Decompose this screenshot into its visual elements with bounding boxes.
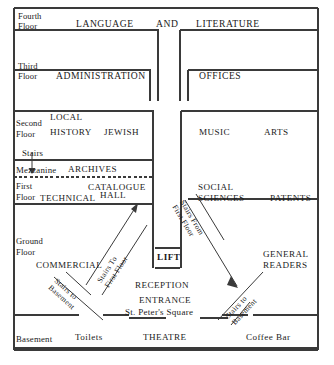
floor-label-mezzanine: Mezzanine — [16, 166, 56, 175]
floor-label-third-line2: Floor — [18, 72, 37, 81]
entrance-label: ENTRANCE — [139, 296, 191, 305]
dept-and: AND — [156, 19, 178, 29]
dept-literature: LITERATURE — [196, 19, 260, 29]
dept-language: LANGUAGE — [76, 19, 134, 29]
dept-music: MUSIC — [199, 128, 230, 137]
dept-sciences: SCIENCES — [198, 194, 245, 203]
floor-label-second-line1: Second — [16, 119, 42, 128]
stairs-label-mezzanine: Stairs — [22, 149, 43, 158]
stairs-from-first-floor-rails — [185, 194, 238, 288]
dept-patents: PATENTS — [270, 194, 311, 203]
dept-jewish: JEWISH — [104, 128, 139, 137]
dept-readers: READERS — [263, 261, 308, 270]
floor-label-first-line1: First — [16, 182, 32, 191]
dept-offices: OFFICES — [199, 71, 241, 81]
floor-label-first-line2: Floor — [16, 193, 35, 202]
floor-label-ground-line2: Floor — [16, 248, 35, 257]
reception-label: RECEPTION — [135, 281, 189, 290]
dept-coffee-bar: Coffee Bar — [246, 333, 290, 342]
dept-technical: TECHNICAL — [40, 194, 96, 203]
dept-archives: ARCHIVES — [68, 165, 117, 174]
dept-general: GENERAL — [263, 250, 309, 259]
dept-toilets: Toilets — [75, 333, 103, 342]
floor-label-basement: Basement — [16, 335, 52, 344]
dept-history: HISTORY — [50, 128, 92, 137]
floor-label-ground-line1: Ground — [16, 237, 43, 246]
dept-arts: ARTS — [264, 128, 289, 137]
floor-label-second-line2: Floor — [16, 130, 35, 139]
dept-theatre: THEATRE — [143, 333, 187, 342]
dept-hall: HALL — [100, 191, 126, 200]
dept-local: LOCAL — [50, 113, 83, 122]
floor-label-fourth-line1: Fourth — [18, 12, 42, 21]
dept-administration: ADMINISTRATION — [56, 71, 146, 81]
floor-label-fourth-line2: Floor — [18, 22, 37, 31]
dept-commercial: COMMERCIAL — [36, 261, 102, 270]
dept-social: SOCIAL — [198, 183, 234, 192]
floor-label-third-line1: Third — [18, 62, 38, 71]
lift-label: LIFT — [157, 253, 180, 262]
st-peters-square-label: St. Peter's Square — [125, 308, 193, 317]
